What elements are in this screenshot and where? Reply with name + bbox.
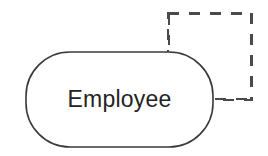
diagram-canvas: Employee — [0, 0, 268, 156]
employee-entity-label: Employee — [26, 52, 213, 147]
